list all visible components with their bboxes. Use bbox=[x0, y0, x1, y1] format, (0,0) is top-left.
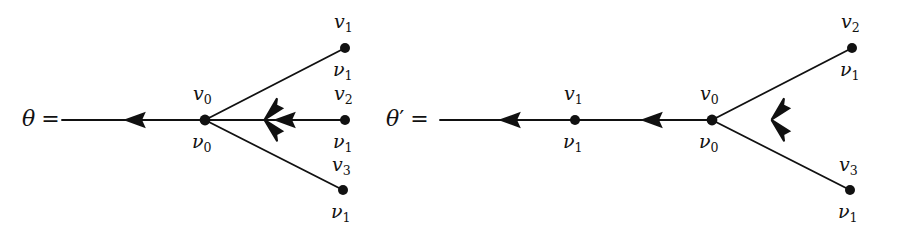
theta-leaf3-bottom-sub: 1 bbox=[343, 210, 351, 225]
theta-branch-arrowhead-1 bbox=[258, 98, 283, 120]
theta-leaf2-top-base: v bbox=[334, 82, 345, 104]
thetaprime-chain-top-label: v1 bbox=[564, 84, 583, 106]
theta-leaf2-top-sub: 2 bbox=[345, 92, 353, 107]
theta-root-top-label: v0 bbox=[193, 84, 212, 106]
thetaprime-leaf1-bottom-label: ν1 bbox=[840, 60, 860, 82]
theta-root-bottom-base: ν bbox=[192, 130, 204, 152]
thetaprime-chain-top-base: v bbox=[564, 82, 575, 104]
thetaprime-leaf1-top-sub: 2 bbox=[852, 20, 860, 35]
theta-leaf2-bottom-label: ν1 bbox=[333, 132, 353, 154]
thetaprime-leaf2-top-sub: 3 bbox=[850, 163, 858, 178]
theta-root-incoming-arrowhead bbox=[126, 114, 144, 127]
thetaprime-leaf2-top-label: v3 bbox=[839, 155, 858, 177]
theta-root-bottom-label: ν0 bbox=[192, 132, 212, 154]
thetaprime-chain-arrowhead-outer bbox=[501, 114, 519, 127]
thetaprime-chain-vertex-dot bbox=[570, 115, 580, 125]
theta-leaf1-top-label: v1 bbox=[334, 12, 353, 34]
thetaprime-leaf2-bottom-base: ν bbox=[838, 200, 850, 222]
theta-root-top-base: v bbox=[193, 82, 204, 104]
theta-branch-arrowhead-2 bbox=[276, 114, 294, 127]
thetaprime-root-top-sub: 0 bbox=[711, 92, 719, 107]
theta-leaf3-top-sub: 3 bbox=[343, 163, 351, 178]
thetaprime-leaf-vertex-dot-2 bbox=[845, 185, 855, 195]
theta-leaf1-top-sub: 1 bbox=[345, 20, 353, 35]
thetaprime-equals-sign: = bbox=[404, 106, 428, 131]
thetaprime-leaf1-bottom-base: ν bbox=[840, 58, 852, 80]
thetaprime-chain-bottom-base: ν bbox=[563, 130, 575, 152]
theta-leaf-vertex-dot-3 bbox=[338, 185, 348, 195]
theta-root-top-sub: 0 bbox=[204, 92, 212, 107]
thetaprime-leaf2-bottom-label: ν1 bbox=[838, 202, 858, 224]
thetaprime-branch-arrowhead-1 bbox=[765, 98, 790, 120]
theta-leaf1-bottom-base: ν bbox=[333, 58, 345, 80]
theta-leaf1-top-base: v bbox=[334, 10, 345, 32]
thetaprime-leaf2-top-base: v bbox=[839, 153, 850, 175]
thetaprime-root-bottom-label: ν0 bbox=[699, 132, 719, 154]
theta-leaf2-bottom-sub: 1 bbox=[345, 140, 353, 155]
theta-leaf-vertex-dot-2 bbox=[340, 115, 350, 125]
theta-leaf3-top-label: v3 bbox=[332, 155, 351, 177]
theta-leaf1-bottom-sub: 1 bbox=[345, 68, 353, 83]
thetaprime-chain-bottom-label: ν1 bbox=[563, 132, 583, 154]
theta-root-vertex-dot bbox=[200, 115, 211, 126]
theta-branch-arrowhead-3 bbox=[258, 120, 283, 141]
theta-leaf-vertex-dot-1 bbox=[340, 43, 350, 53]
theta-root-bottom-sub: 0 bbox=[204, 140, 212, 155]
thetaprime-chain-top-sub: 1 bbox=[575, 92, 583, 107]
thetaprime-leaf1-bottom-sub: 1 bbox=[852, 68, 860, 83]
theta-leaf3-bottom-base: ν bbox=[331, 200, 343, 222]
thetaprime-root-top-label: v0 bbox=[700, 84, 719, 106]
theta-symbol: θ bbox=[22, 106, 35, 131]
thetaprime-root-bottom-sub: 0 bbox=[711, 140, 719, 155]
thetaprime-branch-arrowhead-2 bbox=[765, 120, 790, 141]
figure-canvas: θ= v0 ν0 v1 ν1 v2 ν1 v3 ν1 θ′= v1 ν1 v0 … bbox=[0, 0, 907, 237]
theta-leaf3-bottom-label: ν1 bbox=[331, 202, 351, 224]
thetaprime-root-bottom-base: ν bbox=[699, 130, 711, 152]
diagram-edges-layer bbox=[0, 0, 907, 237]
thetaprime-root-vertex-dot bbox=[707, 115, 718, 126]
theta-leaf3-top-base: v bbox=[332, 153, 343, 175]
theta-leaf1-bottom-label: ν1 bbox=[333, 60, 353, 82]
theta-leaf2-bottom-base: ν bbox=[333, 130, 345, 152]
thetaprime-leaf2-bottom-sub: 1 bbox=[850, 210, 858, 225]
theta-equals-sign: = bbox=[35, 106, 59, 131]
thetaprime-chain-bottom-sub: 1 bbox=[575, 140, 583, 155]
thetaprime-symbol: θ bbox=[386, 106, 399, 131]
thetaprime-chain-arrowhead-inner bbox=[643, 114, 661, 127]
thetaprime-root-top-base: v bbox=[700, 82, 711, 104]
thetaprime-leaf1-top-base: v bbox=[841, 10, 852, 32]
theta-leaf2-top-label: v2 bbox=[334, 84, 353, 106]
theta-equation-label: θ= bbox=[22, 108, 60, 130]
thetaprime-leaf1-top-label: v2 bbox=[841, 12, 860, 34]
thetaprime-equation-label: θ′= bbox=[386, 108, 429, 130]
thetaprime-leaf-vertex-dot-1 bbox=[847, 43, 857, 53]
